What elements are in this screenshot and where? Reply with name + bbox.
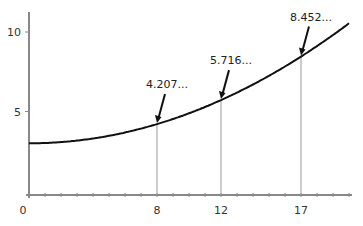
x-tick-label: 17 <box>294 204 308 217</box>
chart: 4.207...5.716...8.452... 081217510 <box>0 0 363 226</box>
axes <box>26 12 352 198</box>
value-annotation: 8.452... <box>290 11 332 24</box>
x-tick-label: 8 <box>154 204 161 217</box>
value-annotation: 4.207... <box>146 78 188 91</box>
y-tick-label: 5 <box>14 106 21 119</box>
arrowhead-icon <box>155 115 162 123</box>
x-tick-label: 0 <box>20 204 27 217</box>
value-annotation: 5.716... <box>210 54 252 67</box>
arrow-icon <box>223 70 230 94</box>
arrow-icon <box>159 94 166 118</box>
y-tick-label: 10 <box>7 26 21 39</box>
arrow-icon <box>303 27 310 51</box>
annotations: 4.207...5.716...8.452... <box>146 11 332 123</box>
x-tick-label: 12 <box>214 204 228 217</box>
